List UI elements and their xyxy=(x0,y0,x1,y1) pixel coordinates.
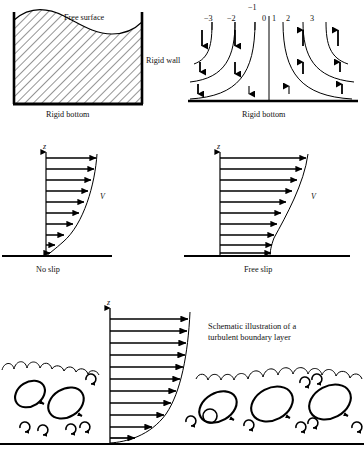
tick-label-neg2: −2 xyxy=(227,14,236,23)
no-slip-drawing xyxy=(0,140,182,288)
arrows-right-up xyxy=(303,30,342,94)
turbulent-caption-line1: Schematic illustration of a xyxy=(208,322,296,332)
top-tick-marks xyxy=(212,22,255,30)
no-slip-caption: No slip xyxy=(36,265,60,275)
tick-label-3: 3 xyxy=(310,14,314,23)
velocity-vectors-free-slip xyxy=(220,158,306,253)
figure-root: Free surface Rigid wall Rigid bottom xyxy=(0,0,364,456)
eddy-arrow xyxy=(78,414,82,416)
eddy-arrow xyxy=(344,414,348,416)
eddy-large xyxy=(10,375,50,413)
eddy-arrow xyxy=(40,402,44,404)
streamlines-left xyxy=(190,22,255,99)
z-axis-label-turbulent: z xyxy=(107,298,110,307)
cloud-top-left xyxy=(2,362,99,375)
eddy-inner xyxy=(203,409,217,423)
free-slip-drawing xyxy=(182,140,364,288)
panel-stagnation-flow: −3 −2 −1 0 1 2 3 Rigid bottom xyxy=(182,0,364,140)
z-axis-label-free-slip: z xyxy=(217,142,220,151)
rigid-bottom-label-container: Rigid bottom xyxy=(46,110,89,120)
small-curls-left xyxy=(20,374,96,435)
velocity-vectors-no-slip xyxy=(46,158,96,253)
eddies-left xyxy=(2,362,99,435)
panel-free-surface-container: Free surface Rigid wall Rigid bottom xyxy=(0,0,182,140)
turbulent-caption-line2: turbulent boundary layer xyxy=(208,333,291,343)
turbulent-layer-drawing xyxy=(0,288,364,456)
free-surface-label: Free surface xyxy=(64,13,104,23)
eddies-right xyxy=(186,368,362,432)
z-axis-label-no-slip: z xyxy=(43,142,46,151)
eddy-arrow xyxy=(230,418,234,420)
eddy-arrow xyxy=(286,416,290,418)
cloud-top-right xyxy=(196,368,362,380)
arrows-left-down xyxy=(198,30,235,94)
tick-label-0: 0 xyxy=(262,14,266,23)
panel-turbulent-boundary-layer: z Schematic illustration of a turbulent … xyxy=(0,288,364,456)
velocity-vectors-turbulent xyxy=(110,319,188,438)
eddy-large xyxy=(42,381,89,425)
velocity-label-no-slip: V xyxy=(100,192,105,201)
panel-free-slip: z V Free slip xyxy=(182,140,364,288)
tick-label-neg1: −1 xyxy=(248,3,257,12)
tick-label-2: 2 xyxy=(286,14,290,23)
streamlines-right xyxy=(283,22,354,99)
eddy-large xyxy=(194,385,243,429)
velocity-label-free-slip: V xyxy=(311,192,316,201)
panel-no-slip: z V No slip xyxy=(0,140,182,288)
tick-label-neg3: −3 xyxy=(204,14,213,23)
free-slip-caption: Free slip xyxy=(244,265,272,275)
tick-label-1: 1 xyxy=(272,14,276,23)
rigid-bottom-label-stagnation: Rigid bottom xyxy=(242,110,285,120)
rigid-wall-label: Rigid wall xyxy=(146,56,180,66)
